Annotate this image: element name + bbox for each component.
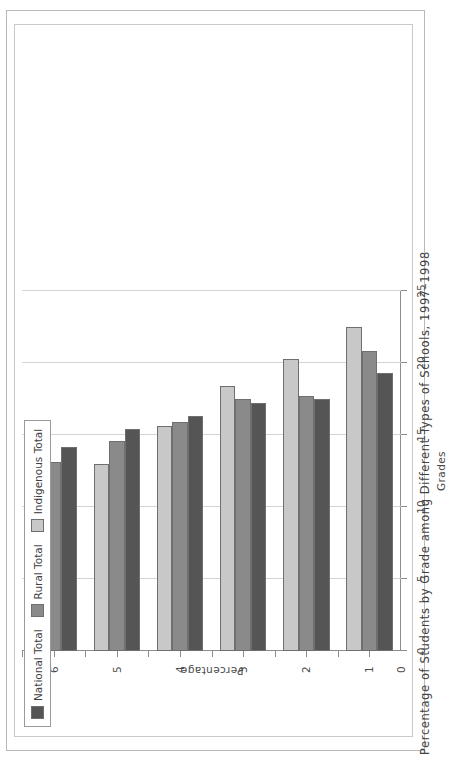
bar-national-total-grade-5 (125, 429, 141, 651)
category-tick-label: 3 (237, 666, 249, 673)
bar-rural-total-grade-1 (362, 351, 378, 651)
category-tick (243, 651, 244, 657)
gridline (22, 578, 401, 579)
category-tick (306, 651, 307, 657)
legend-item-rural[interactable]: Rural Total (31, 544, 44, 617)
rotated-figure-wrapper: Percentage of Students by Grade among Di… (0, 0, 453, 763)
value-tick-label: 25 (415, 284, 427, 297)
bar-national-total-grade-6 (61, 447, 77, 651)
category-axis-origin-label: 0 (395, 666, 407, 673)
category-tick (117, 651, 118, 657)
value-tick (401, 650, 407, 651)
legend-swatch-icon (31, 604, 44, 617)
legend-label: Indigenous Total (32, 429, 44, 515)
category-boundary-tick (148, 651, 149, 657)
bar-rural-total-grade-2 (299, 396, 315, 651)
value-tick (401, 362, 407, 363)
bar-indigenous-total-grade-2 (283, 359, 299, 651)
category-boundary-tick (212, 651, 213, 657)
gridline (22, 290, 401, 291)
value-tick (401, 578, 407, 579)
plot-area: Grades Percentage 05101520251234560 (22, 291, 401, 651)
legend-swatch-icon (31, 706, 44, 719)
category-tick-label: 5 (111, 666, 123, 673)
chart-page: Percentage of Students by Grade among Di… (0, 0, 453, 763)
bar-rural-total-grade-3 (235, 399, 251, 651)
bar-indigenous-total-grade-3 (220, 386, 236, 651)
figure: Percentage of Students by Grade among Di… (0, 0, 453, 763)
gridline (22, 506, 401, 507)
bar-national-total-grade-3 (251, 403, 267, 651)
category-tick (54, 651, 55, 657)
value-tick (401, 434, 407, 435)
value-tick-label: 15 (415, 428, 427, 441)
bar-indigenous-total-grade-5 (94, 464, 110, 651)
legend-item-national[interactable]: National Total (31, 629, 44, 719)
gridline (22, 362, 401, 363)
category-boundary-tick (338, 651, 339, 657)
bar-indigenous-total-grade-4 (157, 426, 173, 651)
legend: National Total Rural Total Indigenous To… (24, 420, 51, 727)
category-tick-label: 1 (363, 666, 375, 673)
category-boundary-tick (275, 651, 276, 657)
legend-swatch-icon (31, 519, 44, 532)
axis-title-grades: Grades (435, 451, 447, 491)
value-tick (401, 290, 407, 291)
bar-national-total-grade-2 (314, 399, 330, 651)
bar-national-total-grade-4 (188, 416, 204, 651)
bar-rural-total-grade-5 (109, 441, 125, 651)
value-tick-label: 20 (415, 356, 427, 369)
category-tick-label: 2 (300, 666, 312, 673)
value-tick-label: 10 (415, 500, 427, 513)
category-boundary-tick (85, 651, 86, 657)
legend-item-indigenous[interactable]: Indigenous Total (31, 429, 44, 533)
value-axis-line (400, 291, 401, 651)
category-tick (369, 651, 370, 657)
value-tick-label: 0 (415, 648, 427, 655)
bar-indigenous-total-grade-1 (346, 327, 362, 651)
bar-rural-total-grade-4 (172, 422, 188, 651)
value-tick-label: 5 (415, 576, 427, 583)
legend-label: Rural Total (32, 544, 44, 599)
category-tick-label: 4 (174, 666, 186, 673)
bar-national-total-grade-1 (377, 373, 393, 651)
value-tick (401, 506, 407, 507)
legend-label: National Total (32, 629, 44, 701)
category-tick (180, 651, 181, 657)
category-boundary-tick (22, 651, 23, 657)
axis-title-percentage: Percentage (180, 665, 243, 677)
gridline (22, 434, 401, 435)
